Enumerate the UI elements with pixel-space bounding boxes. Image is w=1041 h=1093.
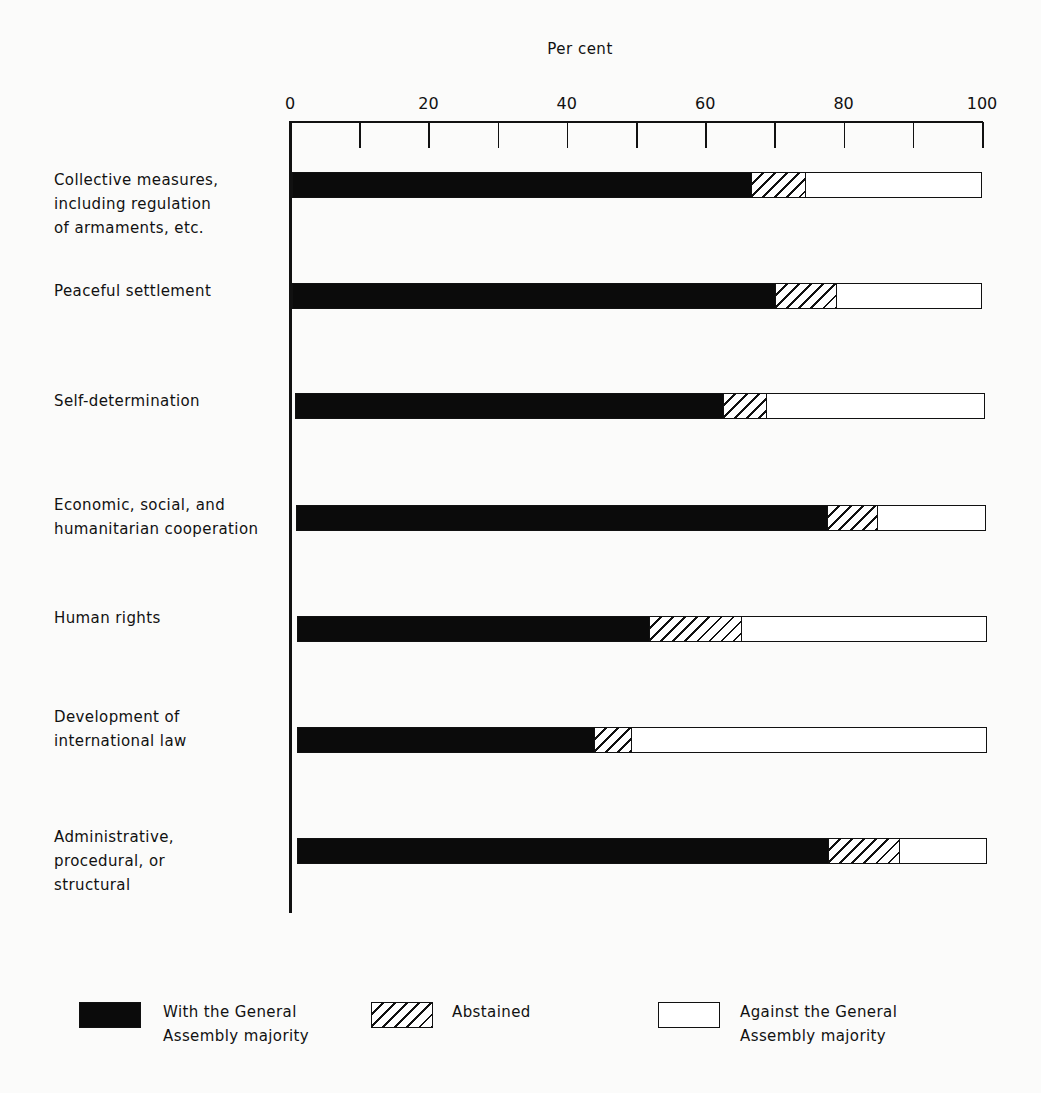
- bar-segment-with-majority: [293, 284, 775, 308]
- bar-segment-against-majority: [900, 839, 986, 863]
- legend-swatch-against: [658, 1002, 720, 1028]
- legend-label-against: Against the General Assembly majority: [740, 1000, 897, 1048]
- bar-segment-against-majority: [806, 173, 981, 197]
- bar-segment-abstained: [649, 617, 742, 641]
- stacked-bar: [297, 727, 987, 753]
- bar-segment-with-majority: [298, 617, 649, 641]
- x-axis-tick: [982, 122, 984, 148]
- legend-label-abstained: Abstained: [452, 1000, 531, 1024]
- x-axis-tick: [567, 122, 569, 148]
- x-axis-tick: [498, 122, 500, 148]
- stacked-bar: [296, 505, 986, 531]
- y-axis-line: [289, 121, 292, 913]
- stacked-bar: [295, 393, 985, 419]
- bar-segment-abstained: [828, 839, 900, 863]
- x-axis-tick: [636, 122, 638, 148]
- stacked-bar: [297, 616, 987, 642]
- bar-segment-against-majority: [837, 284, 982, 308]
- x-tick-label: 20: [418, 94, 438, 113]
- bar-segment-abstained: [594, 728, 632, 752]
- category-label: Administrative, procedural, or structura…: [54, 825, 174, 897]
- category-label: Collective measures, including regulatio…: [54, 168, 218, 240]
- x-axis-tick: [913, 122, 915, 148]
- category-label: Peaceful settlement: [54, 279, 211, 303]
- bar-segment-against-majority: [632, 728, 986, 752]
- stacked-bar: [292, 172, 982, 198]
- legend-swatch-abstained: [371, 1002, 433, 1028]
- category-label: Self-determination: [54, 389, 200, 413]
- legend-swatch-with: [79, 1002, 141, 1028]
- bar-segment-with-majority: [297, 506, 827, 530]
- x-tick-label: 60: [695, 94, 715, 113]
- bar-segment-abstained: [751, 173, 806, 197]
- bar-segment-abstained: [775, 284, 837, 308]
- category-label: Development of international law: [54, 705, 187, 753]
- axis-title: Per cent: [520, 40, 640, 58]
- category-label: Economic, social, and humanitarian coope…: [54, 493, 258, 541]
- x-axis-tick: [844, 122, 846, 148]
- legend-label-with: With the General Assembly majority: [163, 1000, 309, 1048]
- bar-segment-abstained: [723, 394, 768, 418]
- x-tick-label: 100: [967, 94, 998, 113]
- x-axis-tick: [428, 122, 430, 148]
- bar-segment-against-majority: [878, 506, 985, 530]
- bar-segment-with-majority: [298, 728, 594, 752]
- x-tick-label: 80: [833, 94, 853, 113]
- category-label: Human rights: [54, 606, 161, 630]
- x-axis-tick: [359, 122, 361, 148]
- bar-segment-against-majority: [767, 394, 984, 418]
- bar-segment-against-majority: [742, 617, 986, 641]
- stacked-bar: [297, 838, 987, 864]
- bar-segment-abstained: [827, 506, 879, 530]
- x-axis-tick: [774, 122, 776, 148]
- bar-segment-with-majority: [298, 839, 828, 863]
- bar-segment-with-majority: [293, 173, 751, 197]
- x-tick-label: 40: [557, 94, 577, 113]
- bar-segment-with-majority: [296, 394, 723, 418]
- x-axis-tick: [705, 122, 707, 148]
- x-tick-label: 0: [285, 94, 295, 113]
- stacked-bar: [292, 283, 982, 309]
